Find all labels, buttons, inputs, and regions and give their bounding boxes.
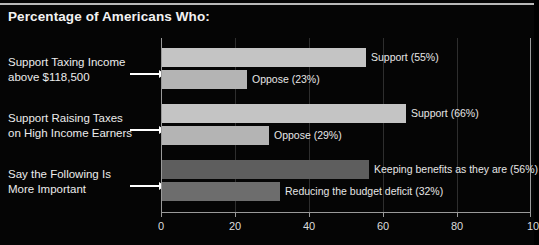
row-label-group-3: Say the Following Is More Important [8, 167, 111, 197]
tickmark-100 [530, 213, 531, 217]
tickmark-0 [161, 213, 162, 217]
bar-group2-support [162, 104, 406, 123]
bar-label-group3-keeping-benefits: Keeping benefits as they are (56%) [374, 160, 538, 179]
tickmark-20 [235, 213, 236, 217]
tick-label-20: 20 [229, 220, 241, 232]
row-label-line-2: on High Income Earners [8, 126, 132, 141]
bar-label-group1-oppose: Oppose (23%) [252, 70, 320, 89]
plot-right-border [530, 38, 531, 213]
bar-label-group3-reducing-deficit: Reducing the budget deficit (32%) [285, 182, 443, 201]
pointer-arrow-group-3 [130, 180, 165, 191]
gridline-80 [457, 38, 458, 213]
plot-area: Support (55%) Oppose (23%) Support (66%)… [161, 38, 531, 213]
x-axis-line [161, 212, 531, 213]
row-label-line-1: Support Taxing Income [8, 55, 125, 70]
tick-label-60: 60 [377, 220, 389, 232]
bar-label-group1-support: Support (55%) [371, 48, 439, 67]
tick-label-80: 80 [451, 220, 463, 232]
row-label-group-1: Support Taxing Income above $118,500 [8, 55, 125, 85]
tick-label-40: 40 [303, 220, 315, 232]
bar-group1-oppose [162, 70, 247, 89]
arrow-shaft [130, 73, 160, 75]
bar-group1-support [162, 48, 366, 67]
row-label-group-2: Support Raising Taxes on High Income Ear… [8, 111, 132, 141]
row-label-line-2: More Important [8, 182, 111, 197]
page-title: Percentage of Americans Who: [8, 9, 210, 24]
tickmark-80 [457, 213, 458, 217]
row-label-line-2: above $118,500 [8, 70, 125, 85]
pointer-arrow-group-2 [130, 124, 165, 135]
bar-group3-reducing-deficit [162, 182, 280, 201]
tick-label-100: 10 [527, 220, 539, 232]
bar-label-group2-support: Support (66%) [411, 104, 479, 123]
row-label-line-1: Say the Following Is [8, 167, 111, 182]
bar-label-group2-oppose: Oppose (29%) [274, 126, 342, 145]
bar-group3-keeping-benefits [162, 160, 369, 179]
arrow-shaft [130, 185, 160, 187]
arrow-shaft [130, 129, 160, 131]
pointer-arrow-group-1 [130, 68, 165, 79]
bar-group2-oppose [162, 126, 269, 145]
top-divider [0, 3, 534, 5]
tickmark-40 [309, 213, 310, 217]
tick-label-0: 0 [158, 220, 164, 232]
row-label-line-1: Support Raising Taxes [8, 111, 132, 126]
tickmark-60 [383, 213, 384, 217]
